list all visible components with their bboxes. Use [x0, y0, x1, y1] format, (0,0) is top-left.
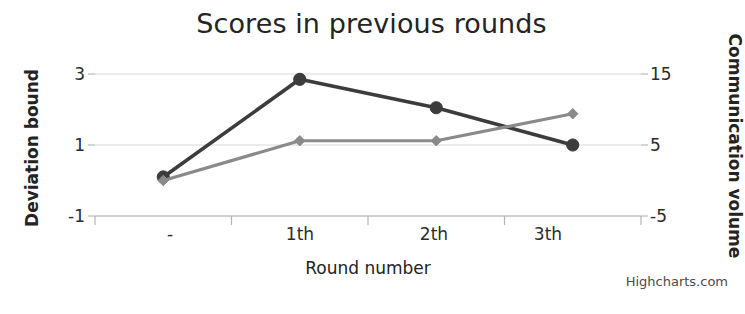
data-point-s0-3[interactable]	[567, 139, 579, 151]
data-point-s1-1[interactable]	[295, 136, 305, 146]
series-layer	[157, 73, 579, 185]
highcharts-credit[interactable]: Highcharts.com	[626, 274, 728, 289]
series-line-1	[163, 114, 573, 181]
data-point-s0-2[interactable]	[430, 102, 442, 114]
data-point-s1-3[interactable]	[568, 109, 578, 119]
axis-lines	[88, 74, 648, 225]
data-point-s0-1[interactable]	[294, 73, 306, 85]
data-point-s1-2[interactable]	[431, 136, 441, 146]
